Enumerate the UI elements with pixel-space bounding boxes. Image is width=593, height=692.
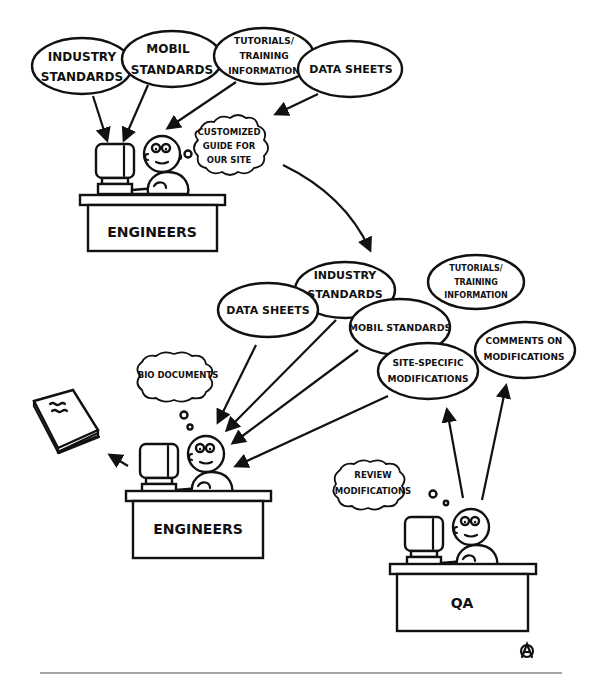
bubble-mobil-standards: MOBIL STANDARDS <box>122 31 222 87</box>
bubble-data-sheets-2: DATA SHEETS <box>218 283 318 337</box>
svg-text:ENGINEERS: ENGINEERS <box>107 224 197 240</box>
svg-text:TRAINING: TRAINING <box>454 278 498 287</box>
svg-text:TRAINING: TRAINING <box>239 51 288 61</box>
desk-engineers-bottom: ENGINEERS <box>126 491 271 558</box>
thought-customized-guide: CUSTOMIZED GUIDE FOR OUR SITE <box>177 115 268 175</box>
bubble-site-specific-modifications: SITE-SPECIFIC MODIFICATIONS <box>378 343 478 399</box>
svg-text:DATA SHEETS: DATA SHEETS <box>309 63 392 76</box>
svg-text:MODIFICATIONS: MODIFICATIONS <box>484 352 565 362</box>
engineer-figure-2 <box>140 436 232 494</box>
svg-text:TUTORIALS/: TUTORIALS/ <box>449 264 502 273</box>
bottom-right-section: REVIEW MODIFICATIONS QA <box>333 386 536 631</box>
svg-text:STANDARDS: STANDARDS <box>131 63 213 77</box>
arrow-datasheets-to-engineer2 <box>218 345 256 422</box>
signature-monogram <box>521 644 533 657</box>
svg-text:CUSTOMIZED: CUSTOMIZED <box>198 127 261 137</box>
svg-text:OUR SITE: OUR SITE <box>207 155 252 165</box>
workflow-diagram: INDUSTRY STANDARDS MOBIL STANDARDS TUTOR… <box>0 0 593 692</box>
arrow-engineer2-to-book <box>110 455 128 466</box>
svg-text:COMMENTS ON: COMMENTS ON <box>486 336 563 346</box>
qa-figure <box>405 509 497 567</box>
arrow-mobil-to-engineer <box>124 85 148 140</box>
svg-text:INDUSTRY: INDUSTRY <box>314 269 378 282</box>
desk-qa: QA <box>390 564 536 631</box>
arrow-sitespecific-to-engineer2 <box>236 396 388 466</box>
middle-section: INDUSTRY STANDARDS DATA SHEETS MOBIL STA… <box>218 255 575 466</box>
svg-text:QA: QA <box>451 595 474 611</box>
arrow-qa-to-comments <box>482 386 506 500</box>
svg-text:DATA SHEETS: DATA SHEETS <box>226 304 309 317</box>
bubble-data-sheets: DATA SHEETS <box>298 41 402 97</box>
svg-text:MODIFICATIONS: MODIFICATIONS <box>335 486 411 496</box>
svg-text:TUTORIALS/: TUTORIALS/ <box>234 36 295 46</box>
svg-text:MOBIL: MOBIL <box>146 42 190 56</box>
book-icon <box>34 390 99 453</box>
arrow-datasheets-to-engineer <box>276 94 318 114</box>
arrow-industry-to-engineer <box>93 96 107 140</box>
svg-text:STANDARDS: STANDARDS <box>41 70 123 84</box>
desk-engineers-top: ENGINEERS <box>80 195 225 251</box>
svg-text:MOBIL STANDARDS: MOBIL STANDARDS <box>349 322 452 333</box>
svg-text:STANDARDS: STANDARDS <box>307 288 383 301</box>
engineer-figure <box>96 136 188 194</box>
arrow-qa-to-site-specific <box>447 410 463 498</box>
svg-text:INFORMATION: INFORMATION <box>444 291 508 300</box>
svg-text:GUIDE FOR: GUIDE FOR <box>203 141 256 151</box>
svg-text:INFORMATION: INFORMATION <box>228 66 300 76</box>
thought-review-modifications: REVIEW MODIFICATIONS <box>333 460 448 509</box>
bubble-label: INDUSTRY <box>48 50 117 64</box>
svg-text:BIO DOCUMENTS: BIO DOCUMENTS <box>138 370 219 380</box>
arrow-mobil-to-engineer2 <box>233 350 358 443</box>
bubble-comments-on-modifications: COMMENTS ON MODIFICATIONS <box>475 322 575 378</box>
bubble-tutorials-training-2: TUTORIALS/ TRAINING INFORMATION <box>428 255 524 309</box>
bottom-left-section: BIO DOCUMENTS ENGINEERS <box>34 352 271 558</box>
svg-text:REVIEW: REVIEW <box>354 470 392 480</box>
svg-text:SITE-SPECIFIC: SITE-SPECIFIC <box>392 358 464 368</box>
svg-text:MODIFICATIONS: MODIFICATIONS <box>388 374 469 384</box>
thought-bio-documents: BIO DOCUMENTS <box>137 352 218 429</box>
top-section: INDUSTRY STANDARDS MOBIL STANDARDS TUTOR… <box>32 28 402 251</box>
arrow-guide-to-components <box>283 165 370 250</box>
svg-text:ENGINEERS: ENGINEERS <box>153 521 243 537</box>
bubble-industry-standards: INDUSTRY STANDARDS <box>32 38 132 94</box>
